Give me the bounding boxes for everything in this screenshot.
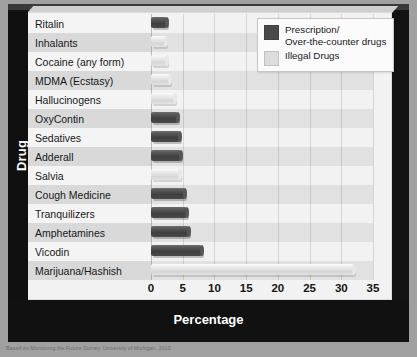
category-label: Adderall bbox=[28, 147, 151, 166]
bar-row bbox=[151, 242, 373, 261]
category-label: Inhalants bbox=[28, 33, 151, 52]
chart-legend: Prescription/ Over-the-counter drugsIlle… bbox=[257, 18, 394, 72]
bar bbox=[151, 226, 189, 237]
category-label: OxyContin bbox=[28, 109, 151, 128]
bar bbox=[151, 74, 170, 85]
x-tick-label: 25 bbox=[303, 282, 316, 294]
bar-row bbox=[151, 147, 373, 166]
legend-swatch bbox=[264, 25, 279, 40]
source-note: Based on Monitoring the Future Survey, U… bbox=[6, 345, 411, 351]
bar bbox=[151, 55, 167, 66]
x-tick-label: 20 bbox=[271, 282, 284, 294]
x-tick-label: 35 bbox=[367, 282, 380, 294]
category-label: Hallucinogens bbox=[28, 90, 151, 109]
x-tick-label: 10 bbox=[208, 282, 221, 294]
x-axis-ticks: 05101520253035 bbox=[151, 282, 383, 300]
legend-label: Illegal Drugs bbox=[285, 50, 339, 62]
bar bbox=[151, 36, 166, 47]
chart-figure: Drug RitalinInhalantsCocaine (any form)M… bbox=[0, 0, 417, 357]
bar-row bbox=[151, 185, 373, 204]
category-label: Ritalin bbox=[28, 14, 151, 33]
category-label: Cough Medicine bbox=[28, 185, 151, 204]
bar-row bbox=[151, 90, 373, 109]
bar-row bbox=[151, 223, 373, 242]
bar-row bbox=[151, 109, 373, 128]
bar-row bbox=[151, 204, 373, 223]
bar bbox=[151, 169, 180, 180]
bar bbox=[151, 112, 178, 123]
legend-swatch bbox=[264, 51, 279, 66]
x-tick-label: 5 bbox=[180, 282, 186, 294]
legend-item: Prescription/ Over-the-counter drugs bbox=[264, 24, 386, 47]
y-axis-band: Drug bbox=[8, 12, 28, 300]
x-axis-title: Percentage bbox=[8, 312, 409, 327]
y-axis-category-labels: RitalinInhalantsCocaine (any form)MDMA (… bbox=[28, 14, 151, 280]
category-label: Cocaine (any form) bbox=[28, 52, 151, 71]
bar bbox=[151, 207, 187, 218]
bar bbox=[151, 245, 202, 256]
bar-row bbox=[151, 71, 373, 90]
x-tick-label: 30 bbox=[335, 282, 348, 294]
bar-row bbox=[151, 261, 373, 280]
bar-row bbox=[151, 166, 373, 185]
bar bbox=[151, 150, 181, 161]
x-tick-label: 15 bbox=[240, 282, 253, 294]
y-axis-title: Drug bbox=[14, 106, 29, 206]
bar-row bbox=[151, 128, 373, 147]
bar bbox=[151, 264, 354, 275]
bar bbox=[151, 17, 167, 28]
legend-item: Illegal Drugs bbox=[264, 50, 386, 66]
category-label: Sedatives bbox=[28, 128, 151, 147]
category-label: Vicodin bbox=[28, 242, 151, 261]
x-tick-label: 0 bbox=[148, 282, 154, 294]
category-label: Tranquilizers bbox=[28, 204, 151, 223]
bar bbox=[151, 131, 180, 142]
bar bbox=[151, 93, 175, 104]
category-label: Amphetamines bbox=[28, 223, 151, 242]
bar bbox=[151, 188, 185, 199]
legend-label: Prescription/ Over-the-counter drugs bbox=[285, 24, 386, 47]
category-label: Salvia bbox=[28, 166, 151, 185]
category-label: Marijuana/Hashish bbox=[28, 261, 151, 280]
category-label: MDMA (Ecstasy) bbox=[28, 71, 151, 90]
